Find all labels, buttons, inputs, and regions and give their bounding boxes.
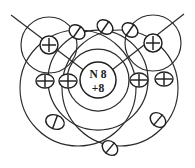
oxygen-nucleus-element-label: N 8 bbox=[90, 68, 107, 80]
electron-cross-right-outer bbox=[155, 72, 173, 86]
electron-cross-left-outer bbox=[36, 74, 54, 88]
hydrogen-right-nucleus bbox=[144, 34, 162, 52]
electron-slash-bottom-right bbox=[147, 109, 169, 131]
electron-slash-top-right bbox=[119, 19, 141, 40]
diagram-canvas: N 8 +8 bbox=[0, 0, 195, 168]
electron-cross-left-inner bbox=[59, 74, 77, 88]
oxygen-nucleus: N 8 +8 bbox=[80, 62, 116, 98]
hydrogen-left-nucleus bbox=[40, 36, 58, 54]
oxygen-nucleus-charge-label: +8 bbox=[92, 82, 105, 94]
electron-cross-right-inner bbox=[130, 73, 148, 87]
water-molecule-diagram: N 8 +8 bbox=[0, 0, 195, 168]
